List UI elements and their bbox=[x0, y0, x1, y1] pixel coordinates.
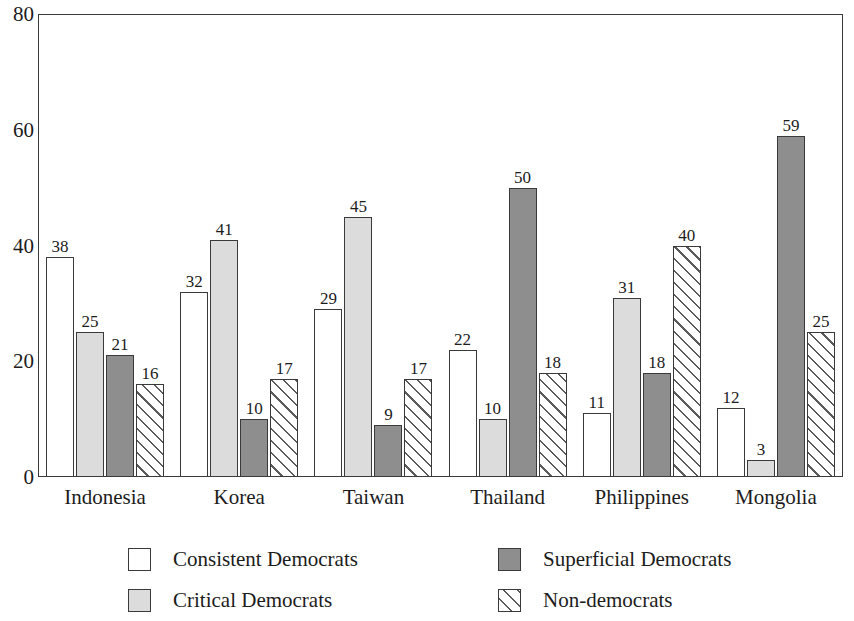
bar-value-label: 10 bbox=[246, 400, 263, 417]
x-axis-category-label: Mongolia bbox=[735, 487, 817, 508]
bar-value-label: 59 bbox=[782, 117, 799, 134]
bar-group: 32411017 bbox=[172, 14, 306, 477]
y-axis-tick-label: 40 bbox=[0, 236, 34, 257]
bar-value-label: 22 bbox=[454, 331, 471, 348]
bar-value-label: 45 bbox=[350, 198, 367, 215]
bar-value-label: 18 bbox=[648, 354, 665, 371]
bar-value-label: 41 bbox=[216, 221, 233, 238]
bar[interactable]: 9 bbox=[374, 425, 402, 477]
x-axis-category-label: Thailand bbox=[470, 487, 545, 508]
bars-layer: 3825211632411017294591722105018113118401… bbox=[38, 14, 843, 477]
bar-value-label: 21 bbox=[112, 336, 129, 353]
bar[interactable]: 41 bbox=[210, 240, 238, 477]
bar-value-label: 9 bbox=[384, 406, 393, 423]
bar-group: 11311840 bbox=[575, 14, 709, 477]
bar-value-label: 10 bbox=[484, 400, 501, 417]
bar[interactable]: 17 bbox=[270, 379, 298, 477]
bar-value-label: 25 bbox=[82, 313, 99, 330]
legend-swatch-icon bbox=[498, 589, 521, 612]
bar-value-label: 29 bbox=[320, 290, 337, 307]
bar[interactable]: 12 bbox=[717, 408, 745, 477]
bar[interactable]: 40 bbox=[673, 246, 701, 478]
bar-value-label: 12 bbox=[722, 389, 739, 406]
bar-value-label: 25 bbox=[812, 313, 829, 330]
x-axis-category-label: Indonesia bbox=[64, 487, 146, 508]
bar-value-label: 18 bbox=[544, 354, 561, 371]
bar-value-label: 38 bbox=[52, 238, 69, 255]
bar[interactable]: 11 bbox=[583, 413, 611, 477]
bar[interactable]: 16 bbox=[136, 384, 164, 477]
bar[interactable]: 18 bbox=[643, 373, 671, 477]
bar[interactable]: 10 bbox=[479, 419, 507, 477]
bar-group: 2945917 bbox=[306, 14, 440, 477]
bar-value-label: 17 bbox=[276, 360, 293, 377]
y-axis-tick-label: 80 bbox=[0, 4, 34, 25]
bar[interactable]: 32 bbox=[180, 292, 208, 477]
bar[interactable]: 10 bbox=[240, 419, 268, 477]
bar[interactable]: 17 bbox=[404, 379, 432, 477]
legend-item[interactable]: Non-democrats bbox=[498, 589, 788, 612]
bar[interactable]: 25 bbox=[807, 332, 835, 477]
x-axis-category-label: Korea bbox=[214, 487, 265, 508]
legend-swatch-icon bbox=[128, 589, 151, 612]
bar[interactable]: 59 bbox=[777, 136, 805, 477]
legend-swatch-icon bbox=[498, 548, 521, 571]
bar-value-label: 40 bbox=[678, 227, 695, 244]
legend-item[interactable]: Consistent Democrats bbox=[128, 548, 498, 571]
y-axis-tick-label: 60 bbox=[0, 120, 34, 141]
bar[interactable]: 50 bbox=[509, 188, 537, 477]
bar-value-label: 31 bbox=[618, 279, 635, 296]
bar-value-label: 11 bbox=[589, 394, 605, 411]
bar[interactable]: 29 bbox=[314, 309, 342, 477]
chart-legend: Consistent DemocratsSuperficial Democrat… bbox=[128, 539, 788, 621]
x-axis-category-label: Philippines bbox=[594, 487, 689, 508]
bar[interactable]: 25 bbox=[76, 332, 104, 477]
bar-group: 38252116 bbox=[38, 14, 172, 477]
bar-group: 22105018 bbox=[441, 14, 575, 477]
bar-value-label: 3 bbox=[757, 441, 766, 458]
y-axis-tick-label: 20 bbox=[0, 351, 34, 372]
legend-label: Consistent Democrats bbox=[173, 549, 358, 570]
legend-swatch-icon bbox=[128, 548, 151, 571]
bar[interactable]: 31 bbox=[613, 298, 641, 477]
bar-value-label: 16 bbox=[142, 365, 159, 382]
legend-item[interactable]: Critical Democrats bbox=[128, 589, 498, 612]
legend-label: Critical Democrats bbox=[173, 590, 332, 611]
bar[interactable]: 18 bbox=[539, 373, 567, 477]
bar[interactable]: 22 bbox=[449, 350, 477, 477]
bar-value-label: 32 bbox=[186, 273, 203, 290]
bar[interactable]: 45 bbox=[344, 217, 372, 477]
legend-label: Superficial Democrats bbox=[543, 549, 731, 570]
bar-value-label: 17 bbox=[410, 360, 427, 377]
bar[interactable]: 21 bbox=[106, 355, 134, 477]
bar[interactable]: 38 bbox=[46, 257, 74, 477]
chart-page: 020406080 382521163241101729459172210501… bbox=[0, 0, 854, 621]
bar[interactable]: 3 bbox=[747, 460, 775, 477]
x-axis-category-label: Taiwan bbox=[343, 487, 405, 508]
legend-item[interactable]: Superficial Democrats bbox=[498, 548, 788, 571]
bar-value-label: 50 bbox=[514, 169, 531, 186]
bar-group: 1235925 bbox=[709, 14, 843, 477]
legend-label: Non-democrats bbox=[543, 590, 672, 611]
y-axis-tick-label: 0 bbox=[0, 467, 34, 488]
